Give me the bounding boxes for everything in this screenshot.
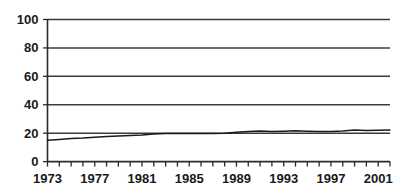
x-axis-tick-label: 1973 <box>33 171 62 186</box>
y-axis-tick-label: 100 <box>17 12 39 27</box>
x-axis-tick-label: 1989 <box>222 171 251 186</box>
x-axis-tick-label: 2001 <box>364 171 393 186</box>
x-axis-tick-label: 1985 <box>175 171 204 186</box>
chart-plot-area: 020406080100 197319771981198519891993199… <box>0 0 408 195</box>
y-axis-tick-label: 60 <box>24 69 38 84</box>
x-axis-tick-label: 1977 <box>80 171 109 186</box>
y-axis-tick-label: 0 <box>31 154 38 169</box>
y-axis-tick-label: 80 <box>24 40 38 55</box>
data-series-group <box>48 130 391 140</box>
x-axis-tick-label: 1993 <box>269 171 298 186</box>
y-axis-tick-label: 20 <box>24 126 38 141</box>
line-chart: 020406080100 197319771981198519891993199… <box>0 0 408 195</box>
y-axis-tick-label: 40 <box>24 97 38 112</box>
x-axis-labels: 19731977198119851989199319972001 <box>33 171 393 186</box>
data-line-1 <box>48 130 391 140</box>
gridlines <box>48 20 391 134</box>
x-axis-tick-label: 1981 <box>128 171 157 186</box>
y-axis-labels: 020406080100 <box>17 12 39 169</box>
x-axis-tick-label: 1997 <box>316 171 345 186</box>
